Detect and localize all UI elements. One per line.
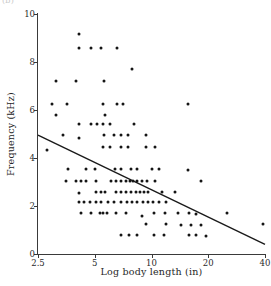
data-point bbox=[152, 201, 155, 204]
data-point bbox=[120, 234, 123, 237]
data-point bbox=[142, 190, 145, 193]
data-point bbox=[107, 201, 110, 204]
data-point bbox=[199, 179, 202, 182]
data-point bbox=[104, 190, 107, 193]
data-point bbox=[50, 103, 53, 106]
x-tick-label: 2.5 bbox=[31, 259, 45, 268]
data-point bbox=[152, 234, 155, 237]
data-point bbox=[131, 201, 134, 204]
data-point bbox=[195, 234, 198, 237]
data-point bbox=[110, 179, 113, 182]
data-point bbox=[180, 224, 183, 227]
data-point bbox=[160, 190, 163, 193]
plot-area bbox=[38, 14, 265, 254]
data-point bbox=[186, 169, 189, 172]
data-point bbox=[144, 134, 147, 137]
data-point bbox=[153, 179, 156, 182]
data-point bbox=[187, 234, 190, 237]
data-point bbox=[62, 134, 65, 137]
data-point bbox=[120, 179, 123, 182]
x-tick-label: 10 bbox=[146, 259, 157, 268]
data-point bbox=[128, 234, 131, 237]
data-point bbox=[136, 167, 139, 170]
data-point bbox=[78, 33, 81, 36]
data-point bbox=[95, 179, 98, 182]
data-point bbox=[105, 212, 108, 215]
data-point bbox=[176, 212, 179, 215]
x-tick-label: 40 bbox=[260, 259, 271, 268]
data-point bbox=[157, 167, 160, 170]
data-point bbox=[151, 167, 154, 170]
panel-label: (b) bbox=[2, 0, 14, 5]
data-point bbox=[124, 190, 127, 193]
data-point bbox=[83, 201, 86, 204]
data-point bbox=[147, 190, 150, 193]
data-point bbox=[101, 146, 104, 149]
data-point bbox=[164, 212, 167, 215]
data-point bbox=[80, 179, 83, 182]
data-point bbox=[98, 212, 101, 215]
data-point bbox=[261, 223, 264, 226]
data-point bbox=[164, 201, 167, 204]
data-point bbox=[100, 46, 103, 49]
data-point bbox=[120, 201, 123, 204]
data-point bbox=[122, 103, 125, 106]
data-point bbox=[116, 46, 119, 49]
data-point bbox=[136, 201, 139, 204]
data-point bbox=[89, 46, 92, 49]
data-point bbox=[77, 136, 80, 139]
data-point bbox=[136, 179, 139, 182]
data-point bbox=[54, 113, 57, 116]
data-point bbox=[102, 212, 105, 215]
data-point bbox=[90, 212, 93, 215]
data-point bbox=[140, 214, 143, 217]
data-point bbox=[199, 224, 202, 227]
data-point bbox=[115, 212, 118, 215]
data-point bbox=[77, 123, 80, 126]
data-point bbox=[54, 80, 57, 83]
y-tick-label: 10 bbox=[24, 10, 35, 19]
data-point bbox=[131, 68, 134, 71]
data-point bbox=[162, 234, 165, 237]
data-point bbox=[103, 134, 106, 137]
data-point bbox=[187, 212, 190, 215]
data-point bbox=[115, 179, 118, 182]
data-point bbox=[100, 190, 103, 193]
data-point bbox=[144, 223, 147, 226]
data-point bbox=[64, 179, 67, 182]
data-point bbox=[135, 190, 138, 193]
data-point bbox=[104, 113, 107, 116]
data-point bbox=[103, 80, 106, 83]
y-axis-label: Frequency (kHz) bbox=[5, 92, 16, 176]
data-point bbox=[141, 201, 144, 204]
data-point bbox=[113, 167, 116, 170]
data-point bbox=[130, 167, 133, 170]
x-tick-label: 20 bbox=[203, 259, 214, 268]
y-tick-label: 2 bbox=[30, 202, 35, 211]
data-point bbox=[173, 190, 176, 193]
data-point bbox=[108, 146, 111, 149]
data-point bbox=[100, 201, 103, 204]
data-point bbox=[85, 179, 88, 182]
data-point bbox=[120, 146, 123, 149]
data-point bbox=[102, 123, 105, 126]
trendline-svg bbox=[38, 14, 265, 254]
data-point bbox=[80, 212, 83, 215]
data-point bbox=[96, 123, 99, 126]
y-tick-label: 8 bbox=[30, 58, 35, 67]
data-point bbox=[95, 190, 98, 193]
data-point bbox=[120, 134, 123, 137]
regression-trendline bbox=[38, 135, 265, 244]
data-point bbox=[225, 212, 228, 215]
data-point bbox=[75, 80, 78, 83]
data-point bbox=[115, 190, 118, 193]
data-point bbox=[75, 179, 78, 182]
data-point bbox=[126, 146, 129, 149]
data-point bbox=[132, 179, 135, 182]
data-point bbox=[120, 190, 123, 193]
data-point bbox=[136, 234, 139, 237]
data-point bbox=[133, 123, 136, 126]
data-point bbox=[186, 103, 189, 106]
data-point bbox=[78, 46, 81, 49]
data-point bbox=[108, 123, 111, 126]
